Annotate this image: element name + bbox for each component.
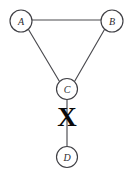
blocked-edge-x-icon: X bbox=[57, 102, 77, 132]
node-c: C bbox=[57, 79, 78, 100]
node-c-label: C bbox=[64, 84, 71, 95]
node-a-label: A bbox=[17, 16, 25, 27]
node-b: B bbox=[101, 10, 123, 32]
node-b-label: B bbox=[109, 16, 115, 27]
node-d: D bbox=[57, 147, 78, 168]
node-d-label: D bbox=[62, 152, 71, 163]
node-a: A bbox=[10, 10, 32, 32]
edge-a-c bbox=[29, 30, 60, 82]
edge-b-c bbox=[75, 30, 105, 82]
graph-figure: A B C D X bbox=[0, 0, 129, 176]
graph-canvas: A B C D X bbox=[0, 0, 129, 176]
